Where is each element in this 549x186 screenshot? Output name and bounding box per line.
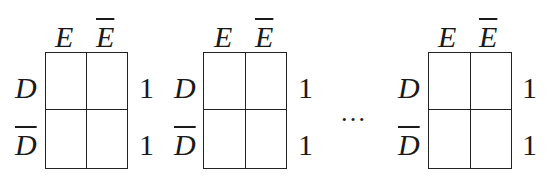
kmap-grid <box>45 52 128 169</box>
kmap-grid <box>428 52 512 169</box>
grid-horizontal-divider <box>429 109 511 110</box>
row-value-d-bar: 1 <box>522 130 537 160</box>
row-value-d-bar: 1 <box>298 130 313 160</box>
grid-vertical-divider <box>86 53 87 168</box>
row-label-d-bar: D <box>15 130 37 160</box>
col-label-e: E <box>438 22 456 52</box>
kmap-grid <box>203 52 287 169</box>
row-value-d: 1 <box>139 73 154 103</box>
col-label-e: E <box>214 22 232 52</box>
row-label-d: D <box>15 73 37 103</box>
ellipsis: … <box>340 103 367 123</box>
row-value-d: 1 <box>298 73 313 103</box>
col-label-e-bar: E <box>479 22 497 52</box>
grid-horizontal-divider <box>204 109 286 110</box>
col-label-e-bar: E <box>255 22 273 52</box>
col-label-e-bar: E <box>96 22 114 52</box>
grid-vertical-divider <box>245 53 246 168</box>
grid-vertical-divider <box>470 53 471 168</box>
row-label-d: D <box>174 73 196 103</box>
row-value-d-bar: 1 <box>139 130 154 160</box>
row-label-d-bar: D <box>174 130 196 160</box>
row-label-d-bar: D <box>398 130 420 160</box>
grid-horizontal-divider <box>46 109 127 110</box>
row-value-d: 1 <box>522 73 537 103</box>
row-label-d: D <box>398 73 420 103</box>
col-label-e: E <box>55 22 73 52</box>
